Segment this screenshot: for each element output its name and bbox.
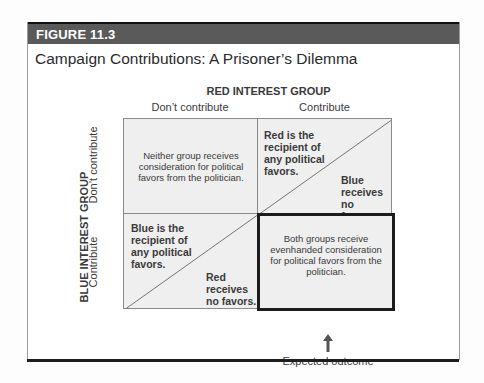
row-label-dont-contribute: Don’t contribute xyxy=(87,117,101,213)
column-label-contribute: Contribute xyxy=(257,101,392,113)
column-player-title: RED INTEREST GROUP xyxy=(28,85,459,97)
cell-top-right-upper-text: Red is the recipient of any political fa… xyxy=(264,129,334,177)
figure-label: FIGURE 11.3 xyxy=(36,27,116,42)
cell-top-right: Red is the recipient of any political fa… xyxy=(257,118,392,214)
cell-bottom-right-expected-outcome: Both groups receive evenhanded considera… xyxy=(257,213,395,311)
cell-bottom-right-text: Both groups receive evenhanded considera… xyxy=(268,233,384,277)
row-label-contribute: Contribute xyxy=(87,214,101,310)
cell-top-right-lower-text: Blue receives no favors. xyxy=(341,174,391,214)
cell-top-left-text: Neither group receives consideration for… xyxy=(138,150,244,183)
figure-frame: FIGURE 11.3 Campaign Contributions: A Pr… xyxy=(27,22,460,360)
cell-top-left: Neither group receives consideration for… xyxy=(123,118,258,214)
payoff-matrix: Neither group receives consideration for… xyxy=(123,118,392,309)
up-arrow-icon xyxy=(321,334,335,352)
cell-bottom-left-upper-text: Blue is the recipient of any political f… xyxy=(131,222,206,270)
cell-bottom-left-lower-text: Red receives no favors. xyxy=(206,271,258,307)
figure-title: Campaign Contributions: A Prisoner’s Dil… xyxy=(35,50,358,68)
cell-bottom-left: Blue is the recipient of any political f… xyxy=(123,213,258,309)
figure-bottom-rule xyxy=(27,359,459,362)
column-label-dont-contribute: Don’t contribute xyxy=(123,101,257,113)
figure-header: FIGURE 11.3 xyxy=(28,22,459,44)
